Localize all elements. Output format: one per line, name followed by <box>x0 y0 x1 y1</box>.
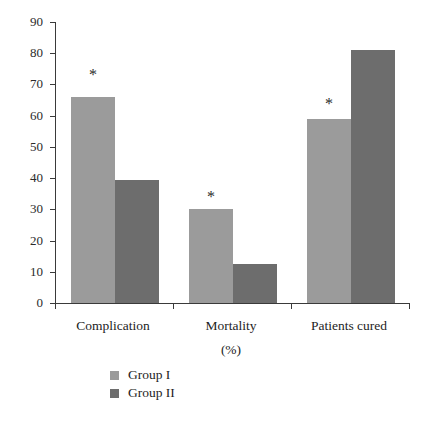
significance-star-patients-cured: * <box>319 96 339 112</box>
bar-mortality-group-ii <box>233 264 277 303</box>
y-tick-label-70: 70 <box>30 75 43 93</box>
bar-complication-group-i <box>71 97 115 303</box>
y-tick-label-80: 80 <box>30 44 43 62</box>
x-tick-mark-2 <box>291 304 292 309</box>
y-tick-label-20: 20 <box>30 232 43 250</box>
x-axis-label-patients-cured: Patients cured <box>285 316 413 335</box>
x-axis-label-complication: Complication <box>49 316 177 335</box>
legend-item-group-i: Group I <box>110 366 175 384</box>
legend-label-group-i: Group I <box>128 367 170 383</box>
x-axis-sublabel-percent: (%) <box>167 340 295 359</box>
legend-label-group-ii: Group II <box>128 385 175 401</box>
x-tick-mark-1 <box>173 304 174 309</box>
bar-patients-cured-group-i <box>307 119 351 303</box>
y-tick-label-10: 10 <box>30 263 43 281</box>
legend-swatch-icon-group-ii <box>110 389 119 398</box>
x-axis-line <box>55 303 410 304</box>
legend-item-group-ii: Group II <box>110 384 175 402</box>
bar-chart: 90 80 70 60 50 40 30 20 10 0 <box>0 0 437 429</box>
plot-area: * * * <box>55 22 410 303</box>
x-tick-mark-3 <box>409 304 410 309</box>
y-tick-label-40: 40 <box>30 169 43 187</box>
bar-mortality-group-i <box>189 209 233 303</box>
y-tick-label-50: 50 <box>30 138 43 156</box>
x-tick-mark-0 <box>55 304 56 309</box>
y-tick-label-30: 30 <box>30 200 43 218</box>
bar-complication-group-ii <box>115 180 159 303</box>
legend-swatch-icon-group-i <box>110 371 119 380</box>
significance-star-complication: * <box>83 67 103 83</box>
bar-patients-cured-group-ii <box>351 50 395 303</box>
y-tick-label-60: 60 <box>30 107 43 125</box>
x-axis-label-mortality: Mortality <box>167 316 295 335</box>
legend: Group I Group II <box>110 366 175 402</box>
y-tick-label-90: 90 <box>30 13 43 31</box>
significance-star-mortality: * <box>201 189 221 205</box>
y-tick-label-0: 0 <box>37 294 44 312</box>
